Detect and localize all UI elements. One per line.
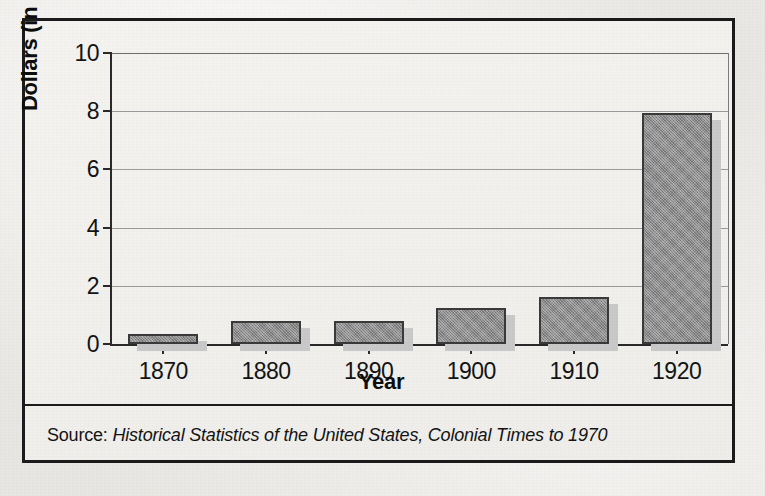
bar-body: [539, 297, 609, 344]
source-label: Source:: [47, 425, 108, 445]
y-tick-label: 10: [74, 40, 99, 67]
y-tick-mark: [103, 168, 112, 170]
y-tick-mark: [103, 227, 112, 229]
gridline: [112, 228, 728, 229]
x-axis-title: Year: [25, 369, 738, 395]
y-tick-label: 8: [87, 98, 99, 125]
y-tick-mark: [103, 52, 112, 54]
gridline: [112, 169, 728, 170]
y-tick-label: 4: [87, 214, 99, 241]
source-caption: Source: Historical Statistics of the Uni…: [47, 425, 607, 446]
y-tick-mark: [103, 110, 112, 112]
y-tick-label: 6: [87, 156, 99, 183]
y-tick-mark: [103, 285, 112, 287]
bar: [436, 308, 506, 344]
bar-body: [436, 308, 506, 344]
bar-body: [334, 321, 404, 344]
bar: [231, 321, 301, 344]
bar: [539, 297, 609, 344]
y-axis-title: Dollars (in billions): [17, 0, 43, 111]
gridline: [112, 53, 728, 54]
bar-body: [231, 321, 301, 344]
y-tick-mark: [103, 343, 112, 345]
bar: [642, 113, 712, 344]
bar-body: [128, 334, 198, 344]
bar-body: [642, 113, 712, 344]
plot-area: 0246810 187018801890190019101920: [110, 53, 728, 346]
bar-chart: Dollars (in billions) 0246810 1870188018…: [25, 21, 738, 404]
source-title: Historical Statistics of the United Stat…: [112, 425, 607, 445]
source-divider: [25, 404, 732, 406]
gridline: [112, 286, 728, 287]
bar: [334, 321, 404, 344]
plot-right-edge: [728, 53, 729, 344]
bar: [128, 334, 198, 344]
y-tick-label: 2: [87, 272, 99, 299]
figure-frame: Dollars (in billions) 0246810 1870188018…: [22, 18, 735, 463]
y-tick-label: 0: [87, 331, 99, 358]
gridline: [112, 111, 728, 112]
